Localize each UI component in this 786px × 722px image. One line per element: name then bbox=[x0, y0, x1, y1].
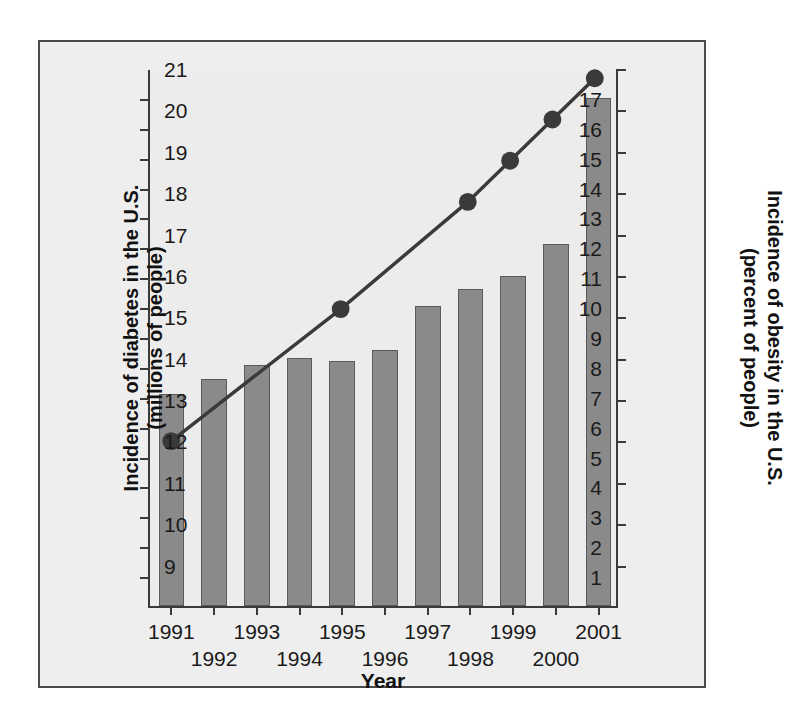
right-tick-19 bbox=[616, 152, 626, 154]
left-tick-label-7: 7 bbox=[590, 388, 602, 409]
x-tick-label-1998: 1998 bbox=[447, 648, 494, 669]
left-tick-label-16: 16 bbox=[579, 119, 602, 140]
x-tick-label-1997: 1997 bbox=[404, 621, 451, 642]
right-tick-13 bbox=[616, 400, 626, 402]
x-tick-label-1995: 1995 bbox=[319, 621, 366, 642]
left-tick-label-1: 1 bbox=[590, 567, 602, 588]
left-tick-label-10: 10 bbox=[579, 298, 602, 319]
right-tick-21 bbox=[616, 69, 626, 71]
x-tick-1996 bbox=[384, 606, 386, 615]
right-tick-20 bbox=[616, 110, 626, 112]
data-point-2000 bbox=[544, 111, 562, 129]
chart-figure: 1716151413121110987654321 21201918171615… bbox=[38, 40, 706, 688]
left-tick-label-15: 15 bbox=[579, 149, 602, 170]
left-tick-label-17: 17 bbox=[579, 89, 602, 110]
left-tick-label-8: 8 bbox=[590, 358, 602, 379]
right-tick-9 bbox=[616, 566, 626, 568]
line-series-overlay bbox=[150, 70, 616, 606]
left-tick-label-11: 11 bbox=[580, 268, 602, 289]
x-tick-1993 bbox=[256, 606, 258, 615]
x-tick-2000 bbox=[555, 606, 557, 615]
right-tick-11 bbox=[616, 483, 626, 485]
right-tick-17 bbox=[616, 235, 626, 237]
x-tick-label-1994: 1994 bbox=[276, 648, 323, 669]
left-tick-label-2: 2 bbox=[590, 537, 602, 558]
right-tick-18 bbox=[616, 193, 626, 195]
x-tick-label-1996: 1996 bbox=[362, 648, 409, 669]
x-tick-1997 bbox=[427, 606, 429, 615]
x-tick-1999 bbox=[512, 606, 514, 615]
x-tick-2001 bbox=[598, 606, 600, 615]
left-axis-title: Incidence of diabetes in the U.S. (milli… bbox=[120, 68, 167, 608]
left-tick-label-14: 14 bbox=[579, 179, 602, 200]
plot-area: 1716151413121110987654321 21201918171615… bbox=[148, 70, 618, 608]
x-tick-1992 bbox=[213, 606, 215, 615]
x-tick-label-2000: 2000 bbox=[533, 648, 580, 669]
left-tick-label-5: 5 bbox=[590, 448, 602, 469]
data-point-1998 bbox=[459, 193, 477, 211]
x-tick-label-1991: 1991 bbox=[148, 621, 195, 642]
obesity-line bbox=[171, 78, 595, 441]
left-tick-label-9: 9 bbox=[590, 328, 602, 349]
right-tick-15 bbox=[616, 317, 626, 319]
right-tick-12 bbox=[616, 441, 626, 443]
x-tick-1998 bbox=[469, 606, 471, 615]
right-tick-14 bbox=[616, 359, 626, 361]
data-point-1995 bbox=[332, 300, 350, 318]
left-tick-label-4: 4 bbox=[590, 477, 602, 498]
x-tick-1995 bbox=[341, 606, 343, 615]
right-tick-16 bbox=[616, 276, 626, 278]
x-tick-1991 bbox=[170, 606, 172, 615]
left-tick-label-12: 12 bbox=[579, 238, 602, 259]
right-tick-10 bbox=[616, 524, 626, 526]
x-tick-label-1993: 1993 bbox=[233, 621, 280, 642]
x-tick-label-1992: 1992 bbox=[191, 648, 238, 669]
x-axis-title: Year bbox=[150, 669, 616, 694]
data-point-1999 bbox=[501, 152, 519, 170]
left-tick-label-3: 3 bbox=[590, 507, 602, 528]
left-tick-label-13: 13 bbox=[579, 208, 602, 229]
x-tick-label-2001: 2001 bbox=[575, 621, 622, 642]
x-tick-1994 bbox=[299, 606, 301, 615]
data-point-2001 bbox=[586, 69, 604, 87]
right-axis-title: Incidence of obesity in the U.S. (percen… bbox=[738, 68, 785, 608]
x-tick-label-1999: 1999 bbox=[490, 621, 537, 642]
left-tick-label-6: 6 bbox=[590, 418, 602, 439]
